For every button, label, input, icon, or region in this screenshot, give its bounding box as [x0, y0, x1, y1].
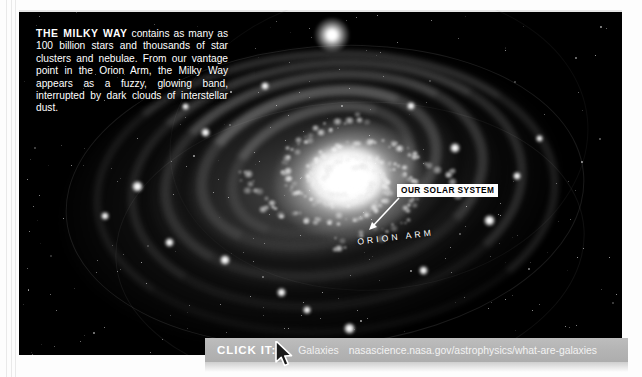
- field-star: [426, 102, 427, 103]
- bright-star-icon: [315, 18, 349, 52]
- star-clump: [297, 143, 300, 145]
- field-star: [309, 28, 310, 29]
- field-star: [498, 214, 499, 215]
- star-clump: [352, 219, 357, 223]
- field-star: [150, 352, 151, 353]
- star-clump: [325, 190, 331, 195]
- star-clump: [303, 217, 311, 224]
- star-clump: [295, 137, 303, 143]
- page-edge-line: [6, 0, 7, 377]
- field-star: [338, 298, 339, 299]
- star-clump: [405, 209, 411, 214]
- star-clump: [416, 198, 419, 201]
- star-clump: [309, 197, 313, 201]
- field-star: [612, 302, 614, 304]
- star-clump: [307, 133, 314, 139]
- field-star: [262, 276, 264, 278]
- star-clump: [285, 162, 288, 164]
- field-star: [360, 216, 361, 217]
- field-star: [56, 310, 57, 311]
- field-star: [220, 304, 221, 305]
- field-star: [532, 310, 533, 311]
- field-star: [465, 226, 466, 227]
- field-star: [570, 219, 571, 220]
- star-clump: [404, 222, 406, 224]
- star-clump: [359, 196, 364, 201]
- star-clump: [320, 152, 326, 157]
- star-clump: [328, 128, 333, 132]
- field-star: [41, 344, 42, 345]
- bright-knot: [132, 181, 143, 192]
- star-clump: [395, 145, 404, 152]
- field-star: [346, 20, 347, 21]
- star-clump: [252, 180, 254, 182]
- star-clump: [382, 162, 384, 164]
- star-clump: [339, 238, 346, 244]
- bright-knot: [536, 135, 543, 142]
- field-star: [523, 26, 524, 27]
- field-star: [341, 105, 343, 107]
- field-star: [80, 341, 81, 342]
- star-clump: [291, 181, 297, 186]
- star-clump: [351, 145, 355, 148]
- field-star: [97, 260, 98, 261]
- field-star: [186, 166, 187, 167]
- galaxies-link[interactable]: Galaxies: [298, 345, 338, 356]
- star-clump: [247, 181, 254, 187]
- star-clump: [433, 166, 442, 174]
- star-clump: [360, 201, 364, 205]
- field-star: [27, 179, 28, 180]
- star-clump: [374, 210, 378, 213]
- star-clump: [290, 148, 293, 151]
- caption-body: contains as many as 100 billion stars an…: [36, 28, 228, 113]
- field-star: [36, 25, 37, 26]
- field-star: [409, 114, 410, 115]
- bright-knot: [513, 172, 521, 180]
- field-star: [120, 178, 121, 179]
- star-clump: [323, 122, 326, 124]
- star-clump: [407, 147, 409, 149]
- field-star: [547, 252, 548, 253]
- field-star: [230, 91, 232, 93]
- field-star: [595, 55, 596, 56]
- field-star: [189, 305, 190, 306]
- field-star: [565, 326, 566, 327]
- field-star: [117, 181, 118, 182]
- field-star: [515, 330, 516, 331]
- star-clump: [318, 199, 323, 203]
- star-clump: [317, 129, 325, 136]
- page-edge-line: [15, 0, 16, 377]
- star-clump: [291, 191, 297, 196]
- field-star: [120, 269, 121, 270]
- click-it-bar[interactable]: CLICK IT: Galaxies nasascience.nasa.gov/…: [205, 338, 628, 362]
- field-star: [311, 37, 312, 38]
- bright-knot: [450, 143, 460, 153]
- field-star: [243, 252, 244, 253]
- star-clump: [366, 192, 372, 197]
- field-star: [459, 233, 461, 235]
- galaxies-url[interactable]: nasascience.nasa.gov/astrophysics/what-a…: [349, 345, 597, 356]
- field-star: [397, 42, 398, 43]
- field-star: [513, 181, 514, 182]
- field-star: [300, 178, 301, 179]
- field-star: [339, 69, 340, 70]
- field-star: [229, 124, 231, 126]
- star-clump: [313, 157, 318, 161]
- star-clump: [332, 247, 338, 252]
- field-star: [253, 261, 254, 262]
- field-star: [93, 332, 95, 334]
- star-clump: [366, 167, 368, 169]
- star-clump: [396, 164, 401, 168]
- page-root: THE MILKY WAY contains as many as 100 bi…: [0, 0, 642, 377]
- star-clump: [327, 221, 332, 225]
- field-star: [576, 325, 577, 326]
- field-star: [255, 48, 256, 49]
- field-star: [154, 24, 155, 25]
- field-star: [327, 118, 328, 119]
- field-star: [599, 138, 601, 140]
- star-clump: [310, 173, 313, 175]
- star-clump: [401, 165, 407, 170]
- star-clump: [381, 139, 385, 142]
- field-star: [27, 268, 28, 269]
- field-star: [544, 114, 545, 115]
